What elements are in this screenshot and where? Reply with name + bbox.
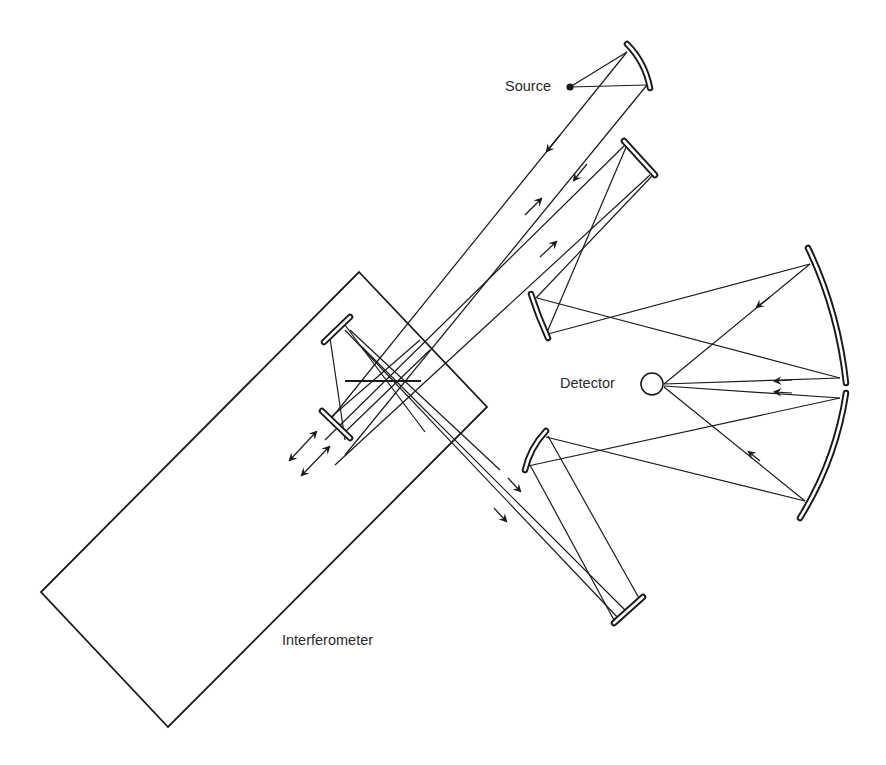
moving-mirror-lower — [322, 411, 350, 438]
moving-mirror-upper — [324, 317, 350, 342]
ellipsoid-mirror-upper — [808, 248, 846, 383]
interferometer-label: Interferometer — [282, 633, 373, 648]
detector-icon — [641, 373, 663, 395]
source-point-icon — [566, 83, 573, 90]
fold-mirror-bottom — [614, 597, 643, 623]
collimating-mirror — [627, 44, 650, 88]
source-label: Source — [505, 79, 551, 94]
ftir-optical-diagram — [0, 0, 886, 765]
fold-mirror-top — [624, 141, 655, 175]
motion-arrows-icon — [290, 432, 329, 475]
light-rays — [325, 52, 840, 620]
ellipsoid-mirror-lower — [800, 393, 846, 518]
detector-label: Detector — [560, 376, 615, 391]
